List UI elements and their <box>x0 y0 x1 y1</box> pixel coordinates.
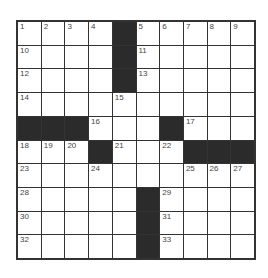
grid-cell[interactable] <box>42 46 65 69</box>
grid-cell[interactable] <box>184 69 207 92</box>
grid-cell[interactable] <box>42 235 65 258</box>
clue-number: 24 <box>91 164 100 174</box>
grid-cell[interactable] <box>231 212 254 235</box>
grid-cell[interactable] <box>113 117 136 140</box>
grid-cell[interactable]: 20 <box>65 141 88 164</box>
grid-cell[interactable]: 21 <box>113 141 136 164</box>
grid-cell[interactable] <box>42 69 65 92</box>
clue-number: 26 <box>210 164 219 174</box>
clue-number: 4 <box>91 22 95 32</box>
black-square <box>65 117 88 140</box>
grid-cell[interactable] <box>231 235 254 258</box>
black-square <box>137 235 160 258</box>
clue-number: 10 <box>20 46 29 56</box>
grid-cell[interactable] <box>65 164 88 187</box>
grid-cell[interactable] <box>231 46 254 69</box>
grid-cell[interactable] <box>65 69 88 92</box>
grid-cell[interactable]: 25 <box>184 164 207 187</box>
grid-cell[interactable]: 12 <box>18 69 41 92</box>
grid-cell[interactable] <box>65 235 88 258</box>
grid-cell[interactable] <box>137 164 160 187</box>
grid-cell[interactable] <box>113 235 136 258</box>
grid-cell[interactable]: 3 <box>65 22 88 45</box>
grid-cell[interactable] <box>231 93 254 116</box>
grid-cell[interactable] <box>160 69 183 92</box>
grid-cell[interactable] <box>160 93 183 116</box>
grid-cell[interactable] <box>65 188 88 211</box>
grid-cell[interactable] <box>231 69 254 92</box>
grid-cell[interactable]: 9 <box>231 22 254 45</box>
grid-cell[interactable] <box>113 212 136 235</box>
crossword-grid: 1234567891011121314151617181920212223242… <box>16 20 256 260</box>
grid-cell[interactable] <box>160 46 183 69</box>
grid-cell[interactable] <box>89 212 112 235</box>
grid-cell[interactable] <box>208 117 231 140</box>
grid-cell[interactable]: 19 <box>42 141 65 164</box>
grid-cell[interactable]: 2 <box>42 22 65 45</box>
clue-number: 23 <box>20 164 29 174</box>
grid-cell[interactable]: 30 <box>18 212 41 235</box>
grid-cell[interactable] <box>65 212 88 235</box>
clue-number: 32 <box>20 235 29 245</box>
grid-cell[interactable]: 14 <box>18 93 41 116</box>
grid-cell[interactable]: 1 <box>18 22 41 45</box>
grid-cell[interactable] <box>89 93 112 116</box>
grid-cell[interactable]: 6 <box>160 22 183 45</box>
grid-cell[interactable] <box>231 188 254 211</box>
grid-cell[interactable] <box>65 46 88 69</box>
grid-cell[interactable] <box>137 117 160 140</box>
grid-cell[interactable]: 29 <box>160 188 183 211</box>
clue-number: 17 <box>186 117 195 127</box>
grid-cell[interactable] <box>231 117 254 140</box>
grid-cell[interactable] <box>208 235 231 258</box>
grid-cell[interactable]: 4 <box>89 22 112 45</box>
grid-cell[interactable]: 18 <box>18 141 41 164</box>
grid-cell[interactable]: 33 <box>160 235 183 258</box>
grid-cell[interactable] <box>208 46 231 69</box>
grid-cell[interactable]: 5 <box>137 22 160 45</box>
grid-cell[interactable] <box>42 93 65 116</box>
grid-cell[interactable]: 8 <box>208 22 231 45</box>
grid-cell[interactable] <box>184 188 207 211</box>
grid-cell[interactable]: 15 <box>113 93 136 116</box>
black-square <box>231 141 254 164</box>
grid-cell[interactable] <box>42 212 65 235</box>
grid-cell[interactable] <box>184 93 207 116</box>
grid-cell[interactable] <box>42 188 65 211</box>
grid-cell[interactable]: 10 <box>18 46 41 69</box>
black-square <box>113 69 136 92</box>
grid-cell[interactable] <box>89 235 112 258</box>
grid-cell[interactable]: 23 <box>18 164 41 187</box>
grid-cell[interactable] <box>65 93 88 116</box>
grid-cell[interactable] <box>89 188 112 211</box>
grid-cell[interactable] <box>113 188 136 211</box>
clue-number: 14 <box>20 93 29 103</box>
grid-cell[interactable] <box>184 46 207 69</box>
grid-cell[interactable]: 27 <box>231 164 254 187</box>
grid-cell[interactable] <box>137 141 160 164</box>
grid-cell[interactable]: 7 <box>184 22 207 45</box>
grid-cell[interactable]: 32 <box>18 235 41 258</box>
grid-cell[interactable] <box>208 212 231 235</box>
grid-cell[interactable] <box>160 164 183 187</box>
clue-number: 21 <box>115 141 124 151</box>
grid-cell[interactable] <box>208 93 231 116</box>
grid-cell[interactable]: 28 <box>18 188 41 211</box>
grid-cell[interactable] <box>137 93 160 116</box>
grid-cell[interactable] <box>208 188 231 211</box>
grid-cell[interactable]: 16 <box>89 117 112 140</box>
grid-cell[interactable]: 24 <box>89 164 112 187</box>
grid-cell[interactable] <box>89 69 112 92</box>
grid-cell[interactable]: 31 <box>160 212 183 235</box>
grid-cell[interactable]: 13 <box>137 69 160 92</box>
grid-cell[interactable]: 11 <box>137 46 160 69</box>
grid-cell[interactable] <box>184 235 207 258</box>
grid-cell[interactable]: 22 <box>160 141 183 164</box>
grid-cell[interactable] <box>42 164 65 187</box>
grid-cell[interactable] <box>208 69 231 92</box>
grid-cell[interactable] <box>113 164 136 187</box>
grid-cell[interactable] <box>89 46 112 69</box>
grid-cell[interactable]: 26 <box>208 164 231 187</box>
grid-cell[interactable]: 17 <box>184 117 207 140</box>
grid-cell[interactable] <box>184 212 207 235</box>
